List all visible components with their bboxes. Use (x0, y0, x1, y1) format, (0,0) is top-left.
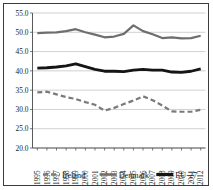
legend-label-eu-27[interactable]: EU-27 (175, 171, 197, 180)
ytick-label: 50.0 (16, 28, 29, 37)
ytick-label: 30.0 (16, 105, 29, 114)
ytick-label: 45.0 (16, 47, 29, 56)
legend-label-denmark[interactable]: Denmark (119, 171, 150, 180)
xtick-label: 1995 (34, 170, 42, 185)
xtick-label: 1997 (53, 170, 61, 185)
ytick-label: 55.0 (16, 9, 29, 18)
ytick-label: 20.0 (16, 144, 29, 153)
legend-label-ireland[interactable]: Ireland (62, 171, 85, 180)
line-chart: 20.025.030.035.040.045.050.055.019951996… (0, 0, 213, 190)
xtick-label: 2008 (159, 170, 167, 185)
ytick-label: 35.0 (16, 86, 29, 95)
ytick-label: 40.0 (16, 67, 29, 76)
xtick-label: 2012 (197, 170, 205, 185)
chart-figure: 20.025.030.035.040.045.050.055.019951996… (0, 0, 213, 190)
ytick-label: 25.0 (16, 124, 29, 133)
xtick-label: 2001 (92, 170, 100, 185)
xtick-label: 2003 (111, 170, 119, 185)
plot-area (33, 13, 206, 148)
xtick-label: 2007 (149, 170, 157, 185)
xtick-label: 2002 (101, 170, 109, 185)
xtick-label: 1996 (44, 170, 52, 185)
